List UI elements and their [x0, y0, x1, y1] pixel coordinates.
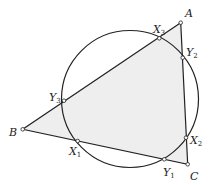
point-y3: [62, 99, 66, 103]
geometry-diagram: ABCX1X2X3Y1Y2Y3: [0, 0, 212, 185]
point-a: [179, 21, 183, 25]
label-x3: X3: [152, 23, 165, 37]
point-y1: [163, 158, 167, 162]
label-y3: Y3: [49, 91, 61, 105]
point-c: [186, 163, 190, 167]
point-x3: [158, 37, 162, 41]
diagram-canvas: ABCX1X2X3Y1Y2Y3: [0, 0, 212, 185]
label-b: B: [8, 126, 17, 139]
label-x2: X2: [189, 134, 202, 148]
label-c: C: [190, 170, 199, 183]
point-y2: [181, 56, 185, 60]
point-x2: [184, 136, 188, 140]
label-x1: X1: [68, 145, 81, 159]
label-y2: Y2: [186, 46, 198, 60]
point-b: [21, 128, 25, 132]
label-y1: Y1: [163, 166, 175, 180]
point-x1: [76, 139, 80, 143]
label-a: A: [184, 7, 193, 20]
triangle-abc: [23, 23, 188, 165]
